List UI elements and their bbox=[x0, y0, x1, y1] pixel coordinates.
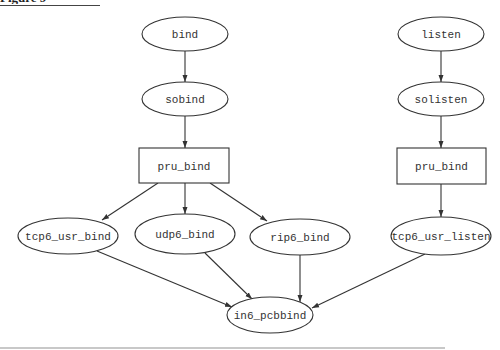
call-graph-diagram: bindsobindpru_bindtcp6_usr_bindudp6_bind… bbox=[0, 0, 500, 350]
edge-tcp6_usr_listen-to-in6_pcbbind bbox=[312, 254, 425, 308]
node-label: in6_pcbbind bbox=[234, 310, 307, 322]
node-pru-bind-left: pru_bind bbox=[139, 148, 229, 183]
node-label: bind bbox=[172, 29, 198, 41]
node-label: tcp6_usr_bind bbox=[25, 231, 111, 243]
node-bind: bind bbox=[142, 17, 228, 51]
node-solisten: solisten bbox=[398, 82, 484, 116]
node-rip6-bind: rip6_bind bbox=[250, 219, 350, 255]
bottom-rule bbox=[0, 347, 445, 349]
node-pru-bind-right: pru_bind bbox=[397, 148, 486, 184]
node-label: udp6_bind bbox=[155, 229, 214, 241]
node-tcp6-usr-listen: tcp6_usr_listen bbox=[391, 217, 491, 255]
edge-pru_bind_left-to-tcp6_usr_bind bbox=[102, 183, 158, 220]
node-listen: listen bbox=[398, 17, 484, 51]
node-tcp6-usr-bind: tcp6_usr_bind bbox=[18, 218, 118, 254]
node-label: rip6_bind bbox=[270, 232, 329, 244]
node-in6-pcbbind: in6_pcbbind bbox=[227, 297, 313, 333]
nodes-layer: bindsobindpru_bindtcp6_usr_bindudp6_bind… bbox=[18, 17, 491, 333]
node-udp6-bind: udp6_bind bbox=[135, 214, 235, 254]
edge-udp6_bind-to-in6_pcbbind bbox=[205, 253, 252, 299]
node-label: sobind bbox=[165, 94, 205, 106]
node-label: tcp6_usr_listen bbox=[391, 231, 490, 243]
node-sobind: sobind bbox=[142, 82, 228, 116]
node-label: pru_bind bbox=[415, 161, 468, 173]
node-label: listen bbox=[421, 29, 461, 41]
node-label: pru_bind bbox=[158, 161, 211, 173]
edge-pru_bind_left-to-rip6_bind bbox=[210, 183, 267, 221]
node-label: solisten bbox=[415, 94, 468, 106]
